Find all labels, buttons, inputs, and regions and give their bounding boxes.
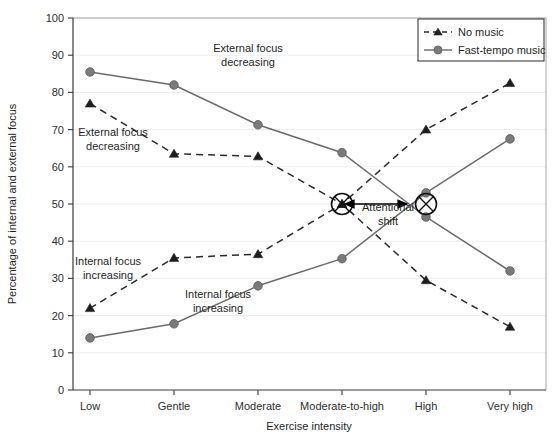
x-tick-label: Moderate-to-high — [300, 400, 384, 412]
legend: No music Fast-tempo music — [418, 19, 546, 61]
annotation-line: decreasing — [221, 56, 275, 68]
data-point-marker — [421, 125, 430, 133]
y-tick-label: 20 — [52, 310, 64, 322]
data-point-marker — [506, 267, 515, 276]
annotation-internal-focus-increasing-upper: Internal focusincreasing — [75, 255, 142, 281]
y-tick-label: 10 — [52, 347, 64, 359]
x-tick-label: High — [415, 400, 438, 412]
annotation-line: decreasing — [86, 140, 140, 152]
x-tick-label: Low — [80, 400, 100, 412]
y-tick-label: 90 — [52, 49, 64, 61]
annotation-line: External focus — [213, 42, 283, 54]
y-tick-label: 60 — [52, 161, 64, 173]
y-tick-label: 70 — [52, 124, 64, 136]
data-point-marker — [338, 254, 347, 263]
annotation-line: Attentional — [362, 201, 414, 213]
annotation-line: increasing — [193, 302, 243, 314]
annotation-internal-focus-increasing-lower: Internal focusincreasing — [185, 288, 252, 314]
y-tick-label: 30 — [52, 272, 64, 284]
data-point-marker — [338, 148, 347, 157]
chart-figure: 0102030405060708090100 LowGentleModerate… — [0, 0, 559, 439]
legend-label-fast-tempo-music: Fast-tempo music — [458, 44, 546, 56]
data-point-marker — [170, 81, 179, 90]
y-tick-label: 0 — [58, 384, 64, 396]
x-axis-ticks: LowGentleModerateModerate-to-highHighVer… — [80, 390, 533, 412]
data-point-marker — [170, 319, 179, 328]
annotations: External focusdecreasingExternal focusde… — [75, 42, 414, 314]
annotation-attentional-shift: Attentionalshift — [362, 201, 414, 227]
data-point-marker — [85, 99, 94, 107]
series-line-internal-focus-increasing — [90, 83, 510, 308]
x-tick-label: Moderate — [235, 400, 281, 412]
data-point-marker — [86, 334, 95, 343]
x-axis-title: Exercise intensity — [266, 420, 352, 432]
y-axis-ticks: 0102030405060708090100 — [46, 12, 73, 396]
legend-label-no-music: No music — [458, 26, 504, 38]
y-tick-label: 40 — [52, 235, 64, 247]
annotation-external-focus-decreasing-lower: External focusdecreasing — [78, 126, 148, 152]
data-point-marker — [254, 120, 263, 129]
data-point-marker — [253, 152, 262, 160]
line-chart: 0102030405060708090100 LowGentleModerate… — [0, 0, 559, 439]
legend-circle-icon — [434, 46, 442, 54]
x-tick-label: Very high — [487, 400, 533, 412]
y-tick-label: 100 — [46, 12, 64, 24]
data-point-marker — [506, 135, 515, 144]
data-point-marker — [505, 322, 514, 330]
series-layer — [85, 68, 514, 343]
series-line-internal-focus-increasing — [90, 139, 510, 338]
data-point-marker — [86, 68, 95, 77]
annotation-line: shift — [378, 215, 398, 227]
y-axis-title: Percentage of internal and external focu… — [6, 103, 18, 304]
data-point-marker — [85, 304, 94, 312]
y-tick-label: 50 — [52, 198, 64, 210]
data-point-marker — [254, 282, 263, 291]
series-line-external-focus-decreasing — [90, 104, 510, 327]
x-tick-label: Gentle — [158, 400, 190, 412]
data-point-marker — [253, 250, 262, 258]
y-tick-label: 80 — [52, 86, 64, 98]
annotation-line: Internal focus — [75, 255, 142, 267]
annotation-line: increasing — [83, 269, 133, 281]
annotation-line: External focus — [78, 126, 148, 138]
annotation-line: Internal focus — [185, 288, 252, 300]
data-point-marker — [505, 79, 514, 87]
